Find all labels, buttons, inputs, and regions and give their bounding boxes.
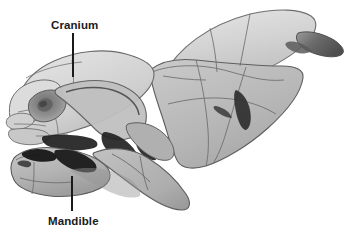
- skull-illustration: [0, 0, 354, 245]
- label-mandible: Mandible: [48, 215, 99, 227]
- label-cranium: Cranium: [51, 19, 98, 31]
- skull-anatomy-figure: Cranium Mandible: [0, 0, 354, 245]
